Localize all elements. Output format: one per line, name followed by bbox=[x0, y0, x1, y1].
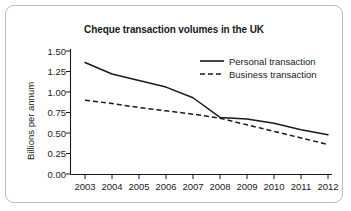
y-tick-label: 1.50 bbox=[48, 46, 67, 57]
y-axis-tick-marks bbox=[66, 51, 70, 174]
line-chart-plot: Billions per annum 1.50 1.25 1.00 0.75 0… bbox=[6, 6, 344, 204]
y-axis-title: Billions per annum bbox=[25, 82, 36, 160]
y-axis-tick-labels: 1.50 1.25 1.00 0.75 0.50 0.25 0.00 bbox=[48, 46, 67, 180]
y-tick-label: 0.50 bbox=[48, 128, 67, 139]
y-tick-label: 1.00 bbox=[48, 87, 67, 98]
x-tick-label: 2007 bbox=[182, 181, 203, 192]
x-tick-label: 2012 bbox=[317, 181, 338, 192]
x-tick-label: 2010 bbox=[263, 181, 284, 192]
x-tick-label: 2005 bbox=[128, 181, 149, 192]
x-tick-label: 2011 bbox=[291, 181, 311, 192]
legend-label-business-transaction: Business transaction bbox=[229, 69, 317, 80]
x-tick-label: 2009 bbox=[236, 181, 257, 192]
y-tick-label: 0.25 bbox=[48, 148, 67, 159]
y-tick-label: 0.75 bbox=[48, 107, 67, 118]
x-tick-label: 2008 bbox=[209, 181, 230, 192]
x-axis-tick-labels: 2003 2004 2005 2006 2007 2008 2009 2010 … bbox=[74, 181, 338, 192]
chart-legend: Personal transaction Business transactio… bbox=[200, 56, 317, 80]
x-tick-label: 2006 bbox=[155, 181, 176, 192]
y-tick-label: 1.25 bbox=[48, 66, 67, 77]
x-tick-label: 2004 bbox=[101, 181, 122, 192]
y-tick-label: 0.00 bbox=[48, 169, 67, 180]
chart-figure-frame: Cheque transaction volumes in the UK Bil… bbox=[5, 5, 343, 203]
x-axis-tick-marks bbox=[85, 175, 328, 180]
legend-label-personal-transaction: Personal transaction bbox=[229, 56, 316, 67]
x-tick-label: 2003 bbox=[74, 181, 95, 192]
